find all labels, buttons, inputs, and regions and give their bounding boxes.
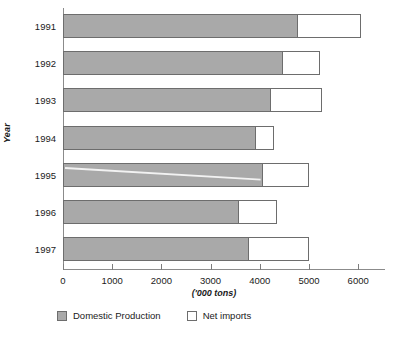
x-axis-tick-label: 4000 <box>237 275 283 286</box>
x-axis-tick-label: 1000 <box>89 275 135 286</box>
bar-row <box>63 51 320 75</box>
x-axis-tick-label: 3000 <box>188 275 234 286</box>
bar-row <box>63 163 309 187</box>
x-axis-tick-label: 2000 <box>138 275 184 286</box>
y-axis-title: Year <box>2 113 12 153</box>
bar-segment-net-imports <box>248 237 310 261</box>
legend-swatch-domestic <box>57 311 67 321</box>
x-axis-title: ('000 tons) <box>0 288 398 298</box>
bar-segment-domestic-production <box>63 163 262 187</box>
bar-segment-domestic-production <box>63 200 238 224</box>
x-axis-tick-label: 0 <box>40 275 86 286</box>
legend-entry: Net imports <box>187 310 252 321</box>
x-axis-tick-mark <box>161 264 162 270</box>
y-axis-tick-label: 1991 <box>22 21 56 32</box>
bar-segment-domestic-production <box>63 237 248 261</box>
bar-segment-net-imports <box>262 163 309 187</box>
x-axis-tick-mark <box>358 264 359 270</box>
bar-segment-domestic-production <box>63 88 270 112</box>
bar-segment-net-imports <box>282 51 320 75</box>
bar-row <box>63 126 274 150</box>
bar-row <box>63 200 277 224</box>
bar-segment-domestic-production <box>63 126 255 150</box>
x-axis-tick-label: 5000 <box>286 275 332 286</box>
y-axis-tick-label: 1996 <box>22 207 56 218</box>
bar-segment-net-imports <box>297 14 361 38</box>
legend-label: Domestic Production <box>73 310 161 321</box>
y-axis-tick-label: 1995 <box>22 170 56 181</box>
chart-legend: Domestic ProductionNet imports <box>57 310 251 321</box>
bar-row <box>63 88 322 112</box>
legend-swatch-imports <box>187 311 197 321</box>
x-axis-tick-mark <box>63 264 64 270</box>
x-axis-tick-mark <box>112 264 113 270</box>
bar-chart: Year 1991199219931994199519961997 010002… <box>0 0 398 342</box>
bar-segment-net-imports <box>238 200 277 224</box>
x-axis-tick-mark <box>211 264 212 270</box>
x-axis-tick-mark <box>309 264 310 270</box>
bar-row <box>63 237 309 261</box>
y-axis-tick-label: 1993 <box>22 95 56 106</box>
x-axis-tick-label: 6000 <box>335 275 381 286</box>
bar-segment-domestic-production <box>63 51 282 75</box>
y-axis-tick-label: 1997 <box>22 244 56 255</box>
x-axis-tick-mark <box>260 264 261 270</box>
y-axis-tick-label: 1994 <box>22 133 56 144</box>
legend-entry: Domestic Production <box>57 310 161 321</box>
bar-segment-domestic-production <box>63 14 297 38</box>
y-axis-tick-label: 1992 <box>22 58 56 69</box>
legend-label: Net imports <box>203 310 252 321</box>
bar-segment-net-imports <box>270 88 323 112</box>
bar-segment-net-imports <box>255 126 274 150</box>
bar-row <box>63 14 361 38</box>
